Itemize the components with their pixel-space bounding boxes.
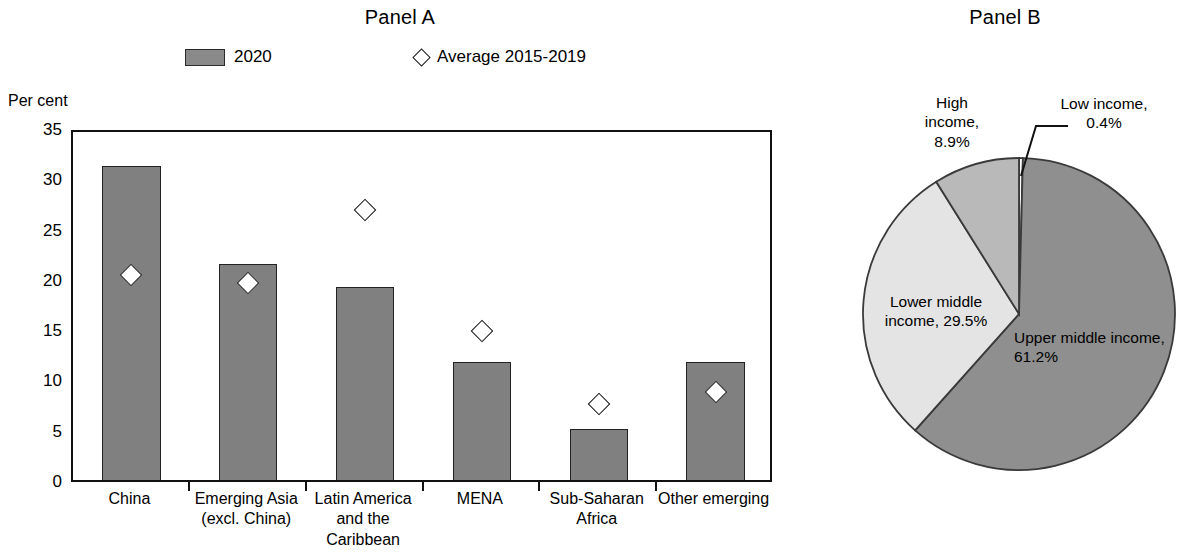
panel-a-legend: 2020 Average 2015-2019 <box>120 46 680 74</box>
x-tick-label: Other emerging <box>655 489 772 509</box>
legend-item-2020: 2020 <box>185 47 272 67</box>
y-tick-label: 10 <box>16 371 62 391</box>
y-axis-tick-labels: 05101520253035 <box>0 0 62 552</box>
legend-label-average: Average 2015-2019 <box>437 47 586 67</box>
panel-a-title: Panel A <box>0 6 800 29</box>
average-marker <box>354 199 377 222</box>
pie-label-low-income: Low income, 0.4% <box>1048 94 1160 133</box>
bar <box>219 264 277 480</box>
x-tick-label: MENA <box>422 489 539 509</box>
bar <box>102 166 160 480</box>
average-marker <box>471 320 494 343</box>
y-tick-label: 0 <box>16 472 62 492</box>
bars-and-markers-layer <box>73 132 770 480</box>
x-tick-label: Sub-SaharanAfrica <box>538 489 655 530</box>
panel-a-plot-area <box>71 130 772 482</box>
y-tick-label: 15 <box>16 321 62 341</box>
y-tick-label: 35 <box>16 120 62 140</box>
x-tick-label: China <box>71 489 188 509</box>
y-tick-label: 5 <box>16 422 62 442</box>
pie-label-lower-middle-income: Lower middle income, 29.5% <box>866 292 1006 331</box>
y-tick-label: 25 <box>16 221 62 241</box>
y-tick-label: 30 <box>16 170 62 190</box>
panel-a: Panel A 2020 Average 2015-2019 Per cent … <box>0 0 820 552</box>
y-tick-label: 20 <box>16 271 62 291</box>
legend-diamond-icon <box>412 48 430 66</box>
bar <box>570 429 628 480</box>
bar <box>453 362 511 480</box>
legend-bar-swatch-icon <box>185 49 225 66</box>
x-tick-label: Emerging Asia(excl. China) <box>188 489 305 530</box>
figure-root: Panel A 2020 Average 2015-2019 Per cent … <box>0 0 1184 552</box>
panel-b-title: Panel B <box>840 6 1170 29</box>
pie-label-upper-middle-income: Upper middle income, 61.2% <box>1014 328 1182 367</box>
bar <box>336 287 394 480</box>
legend-item-average: Average 2015-2019 <box>415 47 586 67</box>
pie-label-high-income: High income, 8.9% <box>906 93 998 151</box>
x-tick-label: Latin Americaand theCaribbean <box>305 489 422 550</box>
legend-label-2020: 2020 <box>234 47 272 67</box>
average-marker <box>587 392 610 415</box>
panel-b: Panel B <box>820 0 1184 552</box>
